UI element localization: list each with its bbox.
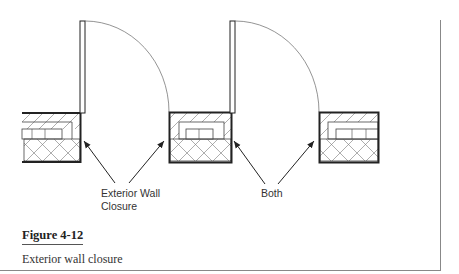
arrow-both-2	[278, 141, 314, 184]
callout-label-line1: Exterior Wall	[101, 187, 160, 200]
middle-wall-section	[170, 113, 232, 163]
callout-label-exterior-wall-closure: Exterior Wall Closure	[101, 187, 160, 213]
arrow-left-1	[84, 141, 115, 183]
callout-label-both-text: Both	[261, 187, 283, 200]
left-wall-section	[22, 112, 81, 163]
door-1-swing	[80, 21, 169, 113]
door-2-swing	[230, 21, 319, 113]
callout-label-line2: Closure	[101, 200, 160, 213]
arrow-left-2	[129, 141, 164, 183]
figure-caption: Exterior wall closure	[22, 252, 123, 267]
figure-number: Figure 4-12	[22, 228, 83, 245]
arrow-both-1	[234, 141, 265, 184]
callout-label-both: Both	[261, 187, 283, 200]
right-wall-section	[320, 113, 379, 163]
